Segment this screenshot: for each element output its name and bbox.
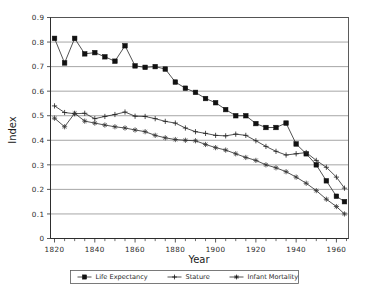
marker-star: [92, 120, 97, 125]
index-vs-year-line-chart: 00.10.20.30.40.50.60.70.80.9 18201840186…: [0, 0, 367, 296]
y-tick-label: 0.7: [32, 62, 45, 71]
marker-plus: [213, 133, 218, 138]
marker-star: [273, 165, 278, 170]
marker-filled-square: [244, 113, 249, 118]
x-tick-label: 1920: [246, 245, 266, 254]
marker-filled-square: [163, 67, 168, 72]
marker-star: [52, 116, 57, 121]
marker-filled-square: [153, 64, 158, 69]
marker-plus: [52, 103, 57, 108]
marker-star: [183, 138, 188, 143]
marker-filled-square: [143, 65, 148, 70]
marker-filled-square: [334, 194, 339, 199]
marker-star: [234, 275, 239, 280]
marker-filled-square: [314, 163, 319, 168]
chart-legend: Life ExpectancyStatureInfant Mortality: [71, 271, 299, 284]
y-axis-title: Index: [7, 116, 18, 144]
marker-star: [62, 124, 67, 129]
marker-filled-square: [342, 199, 347, 204]
legend-item-label: Stature: [186, 273, 210, 281]
marker-filled-square: [284, 121, 289, 126]
gridlines: [51, 18, 349, 214]
marker-plus: [173, 120, 178, 125]
x-tick-label: 1880: [165, 245, 185, 254]
marker-filled-square: [254, 121, 259, 126]
series-polyline: [55, 106, 345, 188]
marker-plus: [253, 138, 258, 143]
y-tick-label: 0.6: [32, 87, 45, 96]
marker-star: [334, 204, 339, 209]
x-tick-label: 1840: [85, 245, 105, 254]
marker-star: [102, 122, 107, 127]
x-tick-label: 1900: [206, 245, 226, 254]
marker-star: [173, 137, 178, 142]
marker-star: [122, 125, 127, 130]
marker-star: [223, 148, 228, 153]
marker-star: [72, 111, 77, 116]
marker-plus: [243, 133, 248, 138]
marker-star: [304, 181, 309, 186]
marker-star: [153, 133, 158, 138]
marker-plus: [122, 109, 127, 114]
marker-filled-square: [264, 125, 269, 130]
marker-star: [283, 169, 288, 174]
marker-plus: [342, 186, 347, 191]
marker-star: [132, 127, 137, 132]
marker-filled-square: [133, 64, 138, 69]
y-tick-label: 0.3: [32, 161, 45, 170]
marker-filled-square: [62, 61, 67, 66]
x-tick-label: 1960: [326, 245, 346, 254]
axis-ticks: [47, 18, 346, 243]
marker-plus: [233, 132, 238, 137]
marker-star: [263, 162, 268, 167]
x-tick-label: 1860: [125, 245, 145, 254]
marker-plus: [112, 112, 117, 117]
series-polyline: [55, 113, 345, 214]
marker-filled-square: [113, 59, 118, 64]
marker-plus: [283, 152, 288, 157]
marker-star: [82, 119, 87, 124]
marker-plus: [153, 116, 158, 121]
marker-filled-square: [92, 50, 97, 55]
marker-filled-square: [193, 90, 198, 95]
series-polyline: [55, 38, 345, 201]
marker-filled-square: [173, 80, 178, 85]
marker-star: [253, 158, 258, 163]
series-stature: [52, 103, 347, 190]
marker-star: [314, 188, 319, 193]
legend-item-label: Infant Mortality: [248, 273, 299, 281]
marker-filled-square: [274, 125, 279, 130]
marker-filled-square: [324, 178, 329, 183]
y-tick-label: 0.9: [32, 13, 45, 22]
y-tick-label: 0: [40, 234, 45, 243]
chart-container: 00.10.20.30.40.50.60.70.80.9 18201840186…: [0, 0, 367, 296]
marker-filled-square: [183, 86, 188, 91]
marker-star: [294, 175, 299, 180]
marker-star: [324, 197, 329, 202]
marker-filled-square: [103, 54, 108, 59]
marker-plus: [62, 110, 67, 115]
marker-plus: [294, 151, 299, 156]
marker-plus: [263, 144, 268, 149]
marker-filled-square: [213, 100, 218, 105]
marker-star: [213, 145, 218, 150]
x-tick-label: 1820: [45, 245, 65, 254]
marker-filled-square: [223, 107, 228, 112]
marker-star: [243, 155, 248, 160]
marker-plus: [203, 131, 208, 136]
series-infant-mortality: [52, 111, 347, 217]
marker-plus: [193, 129, 198, 134]
x-tick-label: 1940: [286, 245, 306, 254]
marker-star: [112, 124, 117, 129]
marker-plus: [132, 114, 137, 119]
marker-star: [342, 211, 347, 216]
marker-plus: [183, 125, 188, 130]
marker-star: [193, 138, 198, 143]
series-life-expectancy: [52, 36, 347, 204]
y-tick-label: 0.1: [32, 210, 45, 219]
x-axis-title: Year: [187, 254, 210, 265]
marker-filled-square: [233, 113, 238, 118]
marker-plus: [143, 114, 148, 119]
marker-star: [233, 151, 238, 156]
legend-item-label: Life Expectancy: [96, 273, 148, 281]
